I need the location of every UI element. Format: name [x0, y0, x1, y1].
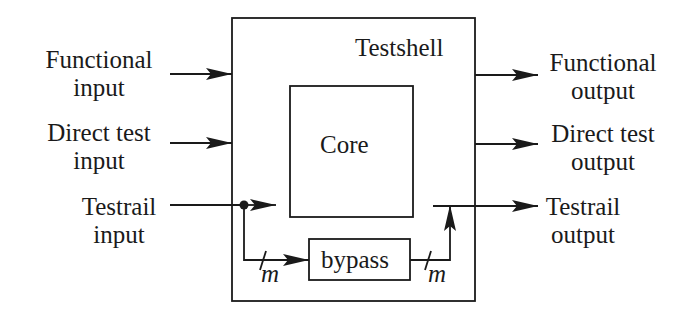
functional-input-label: Functionalinput — [34, 46, 164, 102]
functional-output-label: Functionaloutput — [538, 49, 668, 105]
bus-width-label-out: m — [428, 260, 446, 288]
testrail-output-label: Testrailoutput — [538, 193, 628, 249]
testrail-input-label: Testrailinput — [54, 193, 184, 249]
direct-test-output-label: Direct testoutput — [538, 120, 668, 176]
core-label: Core — [320, 131, 369, 159]
bypass-input-path — [244, 205, 309, 260]
testshell-label: Testshell — [355, 34, 444, 62]
bypass-label: bypass — [321, 246, 389, 274]
direct-test-input-label: Direct testinput — [34, 119, 164, 175]
bus-width-label-in: m — [261, 260, 279, 288]
